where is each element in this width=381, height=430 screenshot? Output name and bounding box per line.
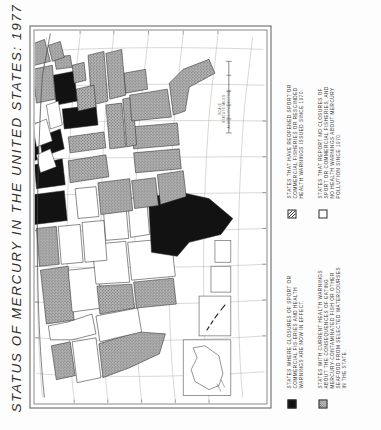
scale-label: SCALE [217, 102, 221, 114]
hawaii-inset [199, 296, 231, 336]
legend-entry-health-warnings-current[interactable]: STATES WITH CURRENT HEALTH WARNINGS ABOU… [317, 218, 347, 408]
legend-swatch-solid-black-icon [287, 399, 296, 408]
scale-bar-labels: SCALE STATUTE MILES ALBERS PROJECTION [217, 60, 230, 157]
legend-entry-text: STATES THAT HAVE REOPENED SPORT OR COMME… [286, 18, 304, 198]
projection-note: ALBERS PROJECTION [226, 89, 230, 128]
legend-entry-text: STATES WHERE CLOSURES OF SPORT OR COMMER… [286, 218, 304, 388]
page-title: STATUS OF MERCURY IN THE UNITED STATES: … [8, 3, 23, 412]
map-canvas: SCALE STATUTE MILES ALBERS PROJECTION [33, 29, 267, 404]
legend-entry-reopened-or-rescinded[interactable]: STATES THAT HAVE REOPENED SPORT OR COMME… [286, 18, 304, 218]
legend-swatch-white-icon [318, 209, 327, 218]
legend-entry-closures-in-effect[interactable]: STATES WHERE CLOSURES OF SPORT OR COMMER… [286, 218, 304, 408]
alaska-inset [183, 339, 231, 395]
legend-swatch-diagonal-hatch-icon [287, 209, 296, 218]
legend-column-right: STATES THAT HAVE REOPENED SPORT OR COMME… [286, 18, 354, 218]
map-frame: SCALE STATUTE MILES ALBERS PROJECTION [29, 25, 271, 408]
legend-entry-no-closures-reported[interactable]: STATES THAT REPORT NO CLOSURES OF SPORT … [317, 18, 341, 218]
legend-swatch-gray-stipple-icon [318, 399, 327, 408]
legend-column-left: STATES WHERE CLOSURES OF SPORT OR COMMER… [286, 218, 360, 408]
scale-units: STATUTE MILES [221, 94, 225, 122]
map-document: STATUS OF MERCURY IN THE UNITED STATES: … [0, 0, 381, 430]
united-states-choropleth [34, 30, 266, 403]
legend-entry-text: STATES WITH CURRENT HEALTH WARNINGS ABOU… [317, 218, 347, 388]
legend-entry-text: STATES THAT REPORT NO CLOSURES OF SPORT … [317, 18, 341, 198]
scanned-map-page: STATUS OF MERCURY IN THE UNITED STATES: … [0, 0, 381, 430]
